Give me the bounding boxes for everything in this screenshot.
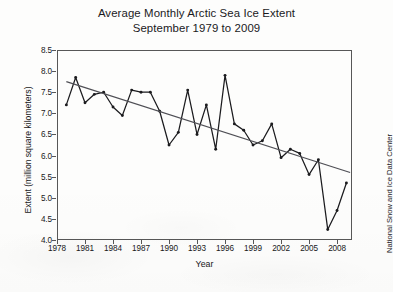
data-point [345,182,348,185]
y-axis-tick-mark [52,156,56,157]
data-point [270,122,273,125]
x-axis-tick-mark [57,240,58,244]
y-axis-tick-mark [52,134,56,135]
x-axis-tick-mark [337,240,338,244]
data-point [112,106,115,109]
y-axis-tick-mark [52,240,56,241]
y-axis-tick-mark [52,177,56,178]
data-point [93,93,96,96]
data-point [196,133,199,136]
y-axis-title: Extent (million square kilometers) [23,60,33,240]
data-point [205,103,208,106]
data-point [130,89,133,92]
data-point [298,152,301,155]
y-axis-tick-mark [52,198,56,199]
data-point [308,173,311,176]
x-axis-tick-mark [169,240,170,244]
y-axis-tick-mark [52,113,56,114]
x-axis-tick-labels: 1978198119841987199019931996199920022005… [0,244,393,258]
data-point [168,144,171,147]
data-point [140,91,143,94]
x-axis-tick-mark [141,240,142,244]
data-series-line [66,75,346,229]
y-axis-tick-mark [52,92,56,93]
data-point [121,114,124,117]
y-axis-tick-mark [52,71,56,72]
data-point [186,89,189,92]
x-axis-tick-label: 2008 [317,244,357,253]
data-point [317,158,320,161]
source-credit: National Snow and Ice Data Center [385,109,393,279]
plot-area [57,50,352,240]
page-title: Average Monthly Arctic Sea Ice Extent [0,6,393,21]
data-point [149,91,152,94]
x-axis-tick-mark [113,240,114,244]
x-axis-tick-mark [309,240,310,244]
data-point [233,122,236,125]
x-axis-title: Year [57,259,352,269]
y-axis-tick-label: 8.5 [24,46,52,55]
x-axis-tick-mark [85,240,86,244]
data-point [336,209,339,212]
data-point [289,148,292,151]
data-point [242,129,245,132]
data-point [214,148,217,151]
y-axis-tick-mark [52,50,56,51]
data-point [84,101,87,104]
data-point [261,139,264,142]
data-point [177,131,180,134]
data-point [252,144,255,147]
data-point [74,76,77,79]
data-point [65,103,68,106]
x-axis-tick-mark [253,240,254,244]
data-point [224,74,227,77]
trend-line [66,82,350,173]
data-point [280,156,283,159]
y-axis-tick-mark [52,219,56,220]
chart-page: Average Monthly Arctic Sea Ice Extent Se… [0,0,393,292]
x-axis-tick-mark [281,240,282,244]
chart-subtitle: September 1979 to 2009 [0,21,393,36]
x-axis-tick-mark [197,240,198,244]
x-axis-tick-mark [225,240,226,244]
data-point [326,228,329,231]
chart-title-block: Average Monthly Arctic Sea Ice Extent Se… [0,6,393,36]
